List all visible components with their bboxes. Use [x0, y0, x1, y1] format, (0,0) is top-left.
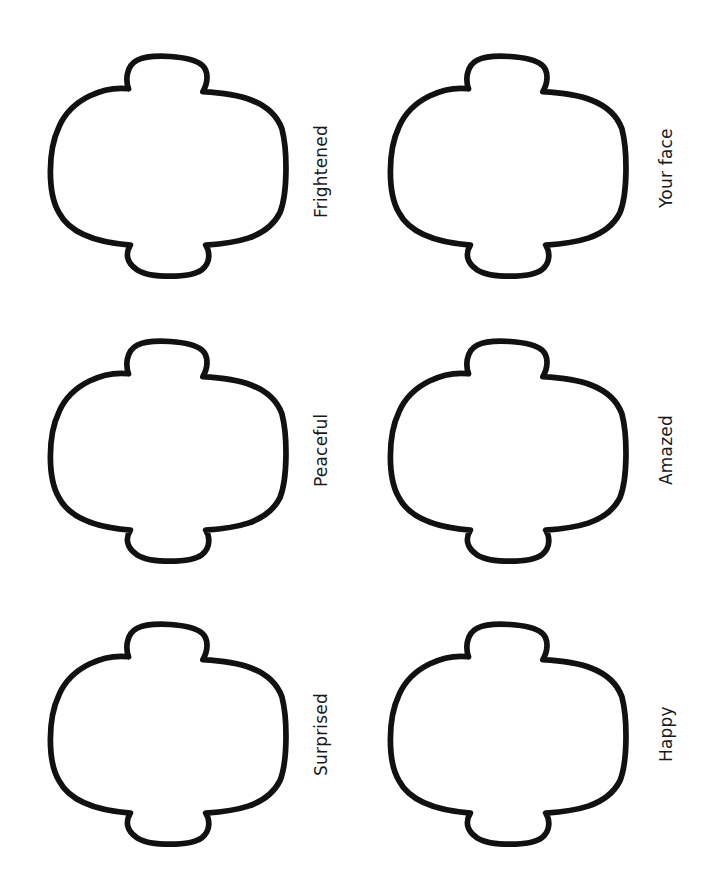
face-outline-your-face: [378, 40, 640, 290]
face-outline-amazed: [378, 325, 640, 575]
face-label-your-face: Your face: [656, 128, 676, 208]
face-outline-happy: [378, 608, 640, 858]
face-label-frightened: Frightened: [311, 125, 331, 218]
face-outline-surprised: [38, 608, 300, 858]
face-outline-frightened: [38, 40, 300, 290]
face-label-peaceful: Peaceful: [311, 414, 331, 487]
face-label-happy: Happy: [656, 706, 676, 762]
face-label-amazed: Amazed: [656, 415, 676, 485]
face-label-surprised: Surprised: [311, 693, 331, 776]
face-outline-peaceful: [38, 325, 300, 575]
